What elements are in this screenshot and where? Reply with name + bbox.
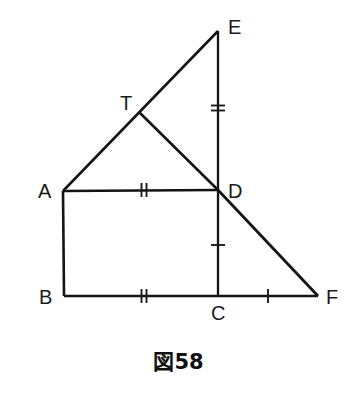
vertex-label-A: A bbox=[38, 180, 52, 202]
vertex-label-C: C bbox=[211, 302, 225, 324]
segment-A-D bbox=[63, 190, 218, 191]
tick-marks-group bbox=[142, 106, 269, 304]
geometry-figure-container: ABCDEFT 図58 bbox=[0, 0, 357, 407]
figure-caption: 図58 bbox=[0, 345, 357, 375]
vertex-label-E: E bbox=[228, 16, 241, 38]
segment-D-F bbox=[218, 190, 318, 296]
segment-T-D bbox=[140, 113, 218, 190]
vertex-label-B: B bbox=[39, 286, 52, 308]
vertex-label-D: D bbox=[228, 180, 242, 202]
vertex-label-F: F bbox=[326, 286, 338, 308]
segment-A-B bbox=[63, 191, 64, 296]
segments-group bbox=[63, 31, 318, 296]
vertex-label-T: T bbox=[120, 92, 132, 114]
